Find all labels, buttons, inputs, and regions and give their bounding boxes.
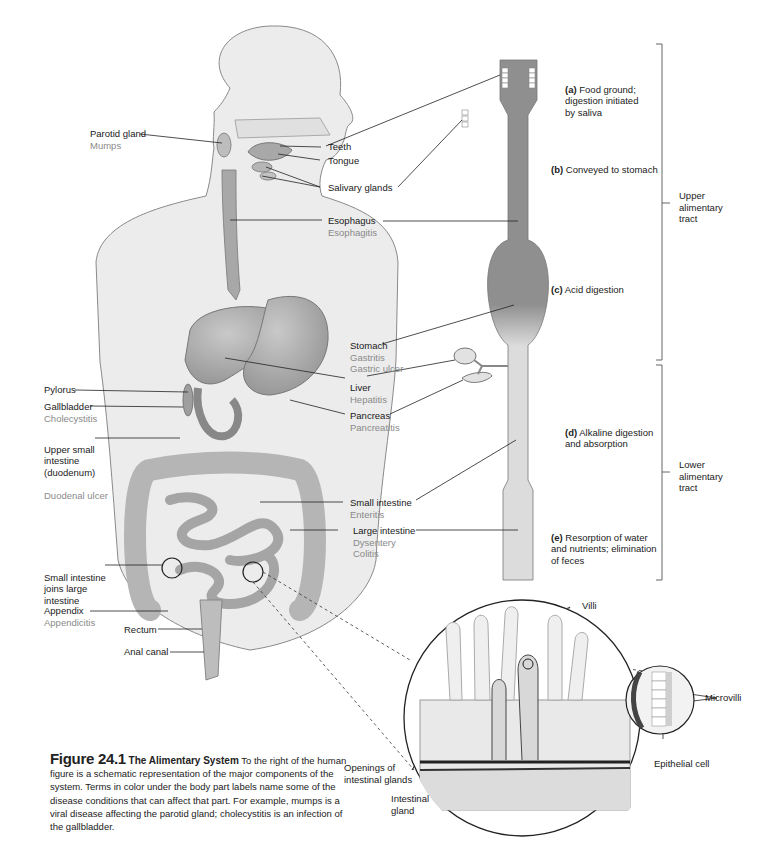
label-stomach: Stomach Gastritis Gastric ulcer: [350, 340, 403, 375]
label-rectum: Rectum: [124, 624, 157, 636]
label-pylorus: Pylorus: [44, 384, 76, 396]
label-salivary-glands: Salivary glands: [328, 182, 392, 194]
disease-gastritis: Gastritis: [350, 352, 403, 364]
villi-magnification: [404, 600, 640, 836]
disease-appendicitis: Appendicitis: [44, 617, 95, 629]
disease-gastric-ulcer: Gastric ulcer: [350, 363, 403, 375]
figure-caption-text: To the right of the human figure is a sc…: [50, 755, 346, 832]
disease-pancreatitis: Pancreatitis: [350, 422, 400, 434]
disease-mumps: Mumps: [90, 140, 146, 152]
disease-cholecystitis: Cholecystitis: [44, 413, 97, 425]
label-intestinal-gland: Intestinal gland: [391, 793, 429, 816]
label-epithelial-cell: Epithelial cell: [654, 758, 709, 770]
figure-title: The Alimentary System: [129, 755, 239, 766]
label-lower-tract: Lower alimentary tract: [679, 459, 723, 494]
disease-esophagitis: Esophagitis: [328, 227, 377, 239]
stage-e: (e) Resorption of water and nutrients; e…: [551, 520, 657, 566]
stage-c: (c) Acid digestion: [551, 284, 624, 296]
figure-caption: Figure 24.1 The Alimentary System To the…: [50, 752, 350, 833]
label-liver: Liver Hepatitis: [350, 382, 387, 405]
label-appendix: Appendix Appendicitis: [44, 605, 95, 628]
label-upper-tract: Upper alimentary tract: [679, 190, 723, 225]
label-teeth: Teeth: [328, 141, 351, 153]
tract-brackets: [656, 44, 670, 580]
microvilli-magnification: [626, 666, 694, 734]
disease-dysentery: Dysentery: [353, 537, 415, 549]
label-parotid-gland: Parotid gland Mumps: [90, 128, 146, 151]
label-microvilli: Microvilli: [705, 692, 741, 704]
label-large-intestine: Large intestine Dysentery Colitis: [353, 525, 415, 560]
stage-a: (a) Food ground; digestion initiated by …: [551, 72, 638, 118]
disease-hepatitis: Hepatitis: [350, 394, 387, 406]
tract-schematic: [454, 60, 548, 580]
stage-b: (b) Conveyed to stomach: [551, 164, 658, 176]
disease-duodenal-ulcer: Duodenal ulcer: [44, 490, 108, 502]
label-openings-intestinal-glands: Openings of intestinal glands: [344, 762, 412, 785]
label-villi: Villi: [582, 600, 597, 612]
disease-colitis: Colitis: [353, 548, 415, 560]
label-tongue: Tongue: [328, 155, 359, 167]
disease-enteritis: Enteritis: [350, 509, 412, 521]
label-gallbladder: Gallbladder Cholecystitis: [44, 401, 97, 424]
label-anal-canal: Anal canal: [124, 646, 168, 658]
figure-number: Figure 24.1: [50, 750, 126, 767]
stage-d: (d) Alkaline digestion and absorption: [551, 415, 653, 450]
label-small-intestine: Small intestine Enteritis: [350, 497, 412, 520]
label-esophagus: Esophagus Esophagitis: [328, 215, 377, 238]
parotid-gland-shape: [217, 133, 231, 157]
label-upper-small-intestine: Upper small intestine (duodenum) Duodena…: [44, 432, 108, 513]
label-pancreas: Pancreas Pancreatitis: [350, 410, 400, 433]
